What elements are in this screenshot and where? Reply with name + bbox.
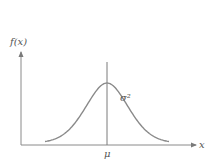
variance-annotation: σ² [120, 92, 131, 103]
chart-canvas: f(x) x μ σ² [0, 0, 219, 163]
mean-tick-label: μ [104, 148, 111, 159]
y-axis-label: f(x) [9, 36, 27, 47]
x-axis-label: x [199, 139, 205, 150]
